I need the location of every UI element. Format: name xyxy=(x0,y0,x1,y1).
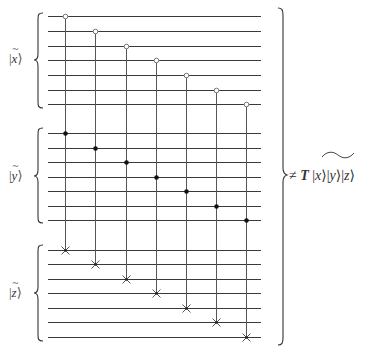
wide-tilde-icon xyxy=(321,150,355,160)
register-label-x: |~x⟩ xyxy=(9,51,22,67)
ket-y: |y⟩ xyxy=(327,168,342,183)
open-control-icon xyxy=(93,29,98,34)
open-control-icon xyxy=(124,44,129,49)
filled-control-icon xyxy=(93,146,98,151)
filled-control-icon xyxy=(63,131,68,136)
filled-control-icon xyxy=(214,204,219,209)
tilde-icon: ~ xyxy=(13,276,19,288)
filled-control-icon xyxy=(244,218,249,223)
ket-var-z-wrap: ~z xyxy=(12,285,17,300)
braces-group xyxy=(34,8,287,345)
left-brace-x xyxy=(34,13,43,108)
open-control-icon xyxy=(154,58,159,63)
filled-control-icon xyxy=(154,175,159,180)
equation: ≠ T |x⟩|y⟩|z⟩ xyxy=(289,167,355,184)
register-label-z: |~z⟩ xyxy=(9,285,22,301)
ket-angle: ⟩ xyxy=(350,168,355,183)
operator-T: T xyxy=(300,168,309,183)
right-brace xyxy=(278,8,287,345)
register-label-y: |~y⟩ xyxy=(9,168,22,184)
open-control-icon xyxy=(63,14,68,19)
tilde-icon: ~ xyxy=(13,159,19,171)
ket-var-x-wrap: ~x xyxy=(12,51,18,66)
left-brace-z xyxy=(34,245,43,341)
ket-x: |x⟩ xyxy=(312,168,327,183)
left-brace-y xyxy=(34,128,43,223)
open-control-icon xyxy=(244,102,249,107)
open-control-icon xyxy=(214,88,219,93)
filled-control-icon xyxy=(184,189,189,194)
ket-z: |z⟩ xyxy=(341,168,355,183)
tilde-icon: ~ xyxy=(13,42,19,54)
relation-symbol: ≠ xyxy=(289,168,297,183)
filled-control-icon xyxy=(124,160,129,165)
open-control-icon xyxy=(184,73,189,78)
ket-var-y-wrap: ~y xyxy=(12,168,18,183)
